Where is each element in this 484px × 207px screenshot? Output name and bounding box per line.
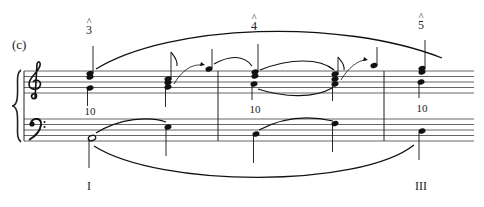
- scale-degree-3: ^ 3: [81, 18, 97, 36]
- treble-chord-1: [86, 46, 95, 106]
- tie-upper-m2: [260, 61, 334, 70]
- bass-note-2: [164, 123, 173, 156]
- tie-lower-m2: [258, 88, 332, 96]
- lower-arch-slur: [94, 145, 414, 177]
- arrowhead-icon: [200, 62, 205, 66]
- roman-numeral-i: I: [77, 180, 101, 192]
- part-label: (c): [12, 38, 26, 51]
- bass-slur-m2: [259, 118, 333, 130]
- treble-chord-2: [164, 52, 177, 107]
- bass-slur-m1: [96, 119, 166, 133]
- bass-clef-icon: [29, 119, 46, 140]
- brace-icon: [12, 70, 21, 142]
- interval-figure: 10: [412, 103, 432, 114]
- roman-numeral-iii: III: [409, 180, 433, 192]
- bass-note-5: [418, 127, 427, 160]
- scale-degree-number: 3: [86, 23, 92, 37]
- treble-chord-4: [331, 57, 344, 101]
- scale-degree-4: ^ 4: [246, 14, 262, 32]
- scale-degree-5: ^ 5: [413, 13, 429, 31]
- treble-upper-note-1: [205, 49, 214, 73]
- bass-note-1: [88, 134, 97, 168]
- treble-upper-note-2: [370, 47, 379, 69]
- arrowhead-icon: [363, 57, 368, 61]
- bass-staff: [24, 119, 474, 141]
- treble-chord-5: [417, 40, 427, 98]
- scale-degree-number: 5: [418, 18, 424, 32]
- interval-figure: 10: [245, 104, 265, 115]
- arrow-slur-1: [174, 65, 202, 84]
- arrow-slur-2: [341, 60, 366, 80]
- interval-figure: 10: [80, 106, 100, 117]
- scale-degree-number: 4: [251, 19, 257, 33]
- slur-m1-m2: [214, 57, 252, 66]
- upper-arch-slur: [96, 31, 442, 69]
- treble-chord-3: [250, 44, 260, 100]
